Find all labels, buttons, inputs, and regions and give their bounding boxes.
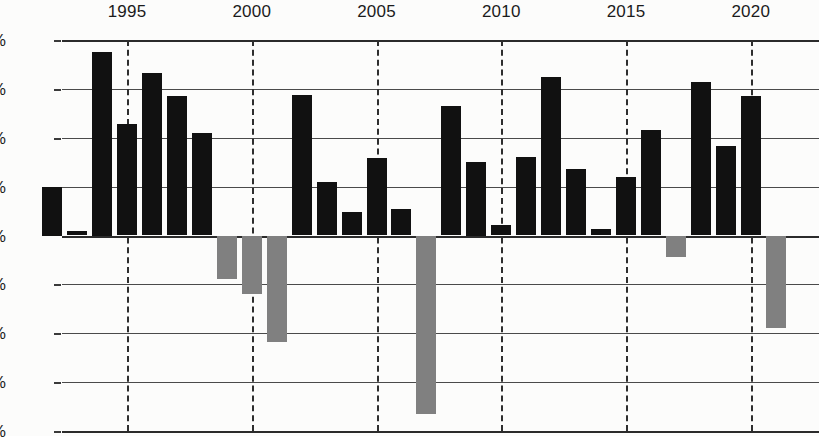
- y-tick-label: 20%: [0, 128, 6, 147]
- bar-2016: [641, 130, 661, 235]
- bar-2009: [466, 162, 486, 235]
- bar-2020: [741, 96, 761, 236]
- bar-2006: [391, 209, 411, 236]
- gridline-vertical-2010: [501, 40, 503, 431]
- x-tick-label-2010: 2010: [482, 2, 521, 22]
- y-tick-label: -10%: [0, 275, 6, 294]
- y-tick-mark: [54, 431, 61, 433]
- y-tick-mark: [54, 138, 61, 140]
- x-tick-label-2015: 2015: [607, 2, 646, 22]
- bar-2003: [317, 182, 337, 235]
- y-tick-label: 40%: [0, 31, 6, 50]
- bar-2001: [267, 236, 287, 343]
- bar-2012: [541, 77, 561, 235]
- y-tick-mark: [54, 284, 61, 286]
- bar-2019: [716, 146, 736, 236]
- bar-2011: [516, 157, 536, 235]
- gridline-horizontal: [62, 333, 819, 334]
- x-axis-labels: 199520002005201020152020: [0, 0, 819, 28]
- x-tick-label-2020: 2020: [731, 2, 770, 22]
- y-tick-label: 10%: [0, 177, 6, 196]
- bar-1993: [67, 231, 87, 236]
- gridline-vertical-2015: [626, 40, 628, 431]
- bar-2021: [766, 236, 786, 328]
- bar-1994: [92, 52, 112, 235]
- x-tick-label-2005: 2005: [357, 2, 396, 22]
- gridline-horizontal: [62, 382, 819, 383]
- y-tick-mark: [54, 382, 61, 384]
- gridline-horizontal: [62, 236, 819, 238]
- bar-2018: [691, 82, 711, 236]
- x-tick-label-1995: 1995: [108, 2, 147, 22]
- y-tick-label: 30%: [0, 79, 6, 98]
- bar-1997: [167, 96, 187, 236]
- bar-1999: [217, 236, 237, 280]
- gridline-vertical-2005: [377, 40, 379, 431]
- bar-2010: [491, 225, 511, 235]
- gridline-horizontal: [62, 284, 819, 285]
- bar-2017: [666, 236, 686, 258]
- plot-area: [62, 40, 819, 431]
- gridline-vertical-1995: [127, 40, 129, 431]
- bar-2007: [416, 236, 436, 414]
- bar-2014: [591, 229, 611, 236]
- bar-1996: [142, 73, 162, 235]
- bar-1992: [42, 187, 62, 236]
- bar-2013: [566, 169, 586, 236]
- bar-2015: [616, 177, 636, 235]
- y-tick-label: -40%: [0, 422, 6, 441]
- y-tick-mark: [54, 40, 61, 42]
- y-tick-mark: [54, 89, 61, 91]
- gridline-horizontal: [62, 431, 819, 433]
- bar-2000: [242, 236, 262, 295]
- bar-1998: [192, 133, 212, 236]
- y-tick-label: 0%: [0, 226, 6, 245]
- y-tick-mark: [54, 333, 61, 335]
- y-tick-label: -30%: [0, 373, 6, 392]
- bar-2002: [292, 95, 312, 236]
- bar-2004: [342, 212, 362, 236]
- bar-1995: [117, 124, 137, 235]
- bar-2008: [441, 106, 461, 235]
- gridline-horizontal: [62, 40, 819, 42]
- y-tick-label: -20%: [0, 324, 6, 343]
- bar-2005: [367, 158, 387, 235]
- x-tick-label-2000: 2000: [232, 2, 271, 22]
